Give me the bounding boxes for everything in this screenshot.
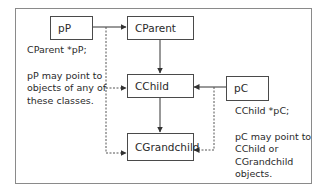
cparent-label: CParent: [135, 23, 176, 34]
pP-label: pP: [58, 23, 71, 34]
pP-box: pP: [50, 16, 93, 40]
right-note-line: CGrandchild: [235, 156, 311, 169]
cparent-box: CParent: [127, 16, 194, 40]
right-note-line: pC may point to: [235, 131, 311, 144]
left-note: CParent *pP; pP may point to objects of …: [27, 44, 106, 107]
left-note-line: pP may point to: [27, 70, 106, 83]
pC-box: pC: [226, 76, 269, 101]
right-note-declaration: CChild *pC;: [235, 105, 311, 118]
cgrandchild-label: CGrandchild: [135, 142, 199, 153]
pC-label: pC: [234, 83, 248, 94]
right-note-line: objects.: [235, 168, 311, 181]
right-note: CChild *pC; pC may point to CChild or CG…: [235, 105, 311, 181]
left-note-declaration: CParent *pP;: [27, 44, 106, 57]
left-note-line: these classes.: [27, 95, 106, 108]
left-note-line: objects of any of: [27, 82, 106, 95]
right-note-line: CChild or: [235, 143, 311, 156]
cgrandchild-box: CGrandchild: [127, 133, 194, 161]
cchild-label: CChild: [135, 81, 169, 92]
cchild-box: CChild: [127, 74, 194, 98]
